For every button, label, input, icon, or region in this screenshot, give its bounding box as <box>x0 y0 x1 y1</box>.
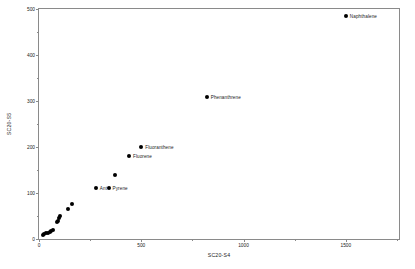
y-axis-tick <box>36 55 39 56</box>
x-axis-tick-label: 1500 <box>340 243 351 248</box>
data-point-label: Naphthalene <box>350 13 377 18</box>
data-point <box>55 220 59 224</box>
x-axis-tick <box>244 239 245 242</box>
y-axis-minor-tick <box>37 216 39 217</box>
x-axis-minor-tick <box>192 239 193 241</box>
data-point <box>344 14 348 18</box>
scatter-plot-figure: NaphthalenePhenanthreneFluorantheneFluor… <box>0 0 415 269</box>
data-point <box>139 145 143 149</box>
y-axis-tick-label: 500 <box>27 7 35 12</box>
x-axis-tick <box>39 239 40 242</box>
x-axis-minor-tick <box>90 239 91 241</box>
data-point <box>205 95 209 99</box>
data-point <box>107 186 111 190</box>
y-axis-minor-tick <box>37 32 39 33</box>
data-point <box>127 154 131 158</box>
x-axis-tick <box>141 239 142 242</box>
x-axis-minor-tick <box>295 239 296 241</box>
data-point <box>66 207 70 211</box>
plot-area: NaphthalenePhenanthreneFluorantheneFluor… <box>38 8 400 240</box>
x-axis-minor-tick <box>397 239 398 241</box>
y-axis-title: SC20-S5 <box>6 113 12 135</box>
x-axis-tick-label: 500 <box>137 243 145 248</box>
y-axis-minor-tick <box>37 124 39 125</box>
data-point <box>113 173 117 177</box>
data-point-label: Fluoranthene <box>145 145 173 150</box>
y-axis-tick-label: 200 <box>27 145 35 150</box>
y-axis-tick <box>36 147 39 148</box>
x-axis-tick-label: 0 <box>38 243 41 248</box>
y-axis-minor-tick <box>37 170 39 171</box>
x-axis-tick <box>346 239 347 242</box>
y-axis-tick-label: 400 <box>27 53 35 58</box>
data-points-layer: NaphthalenePhenanthreneFluorantheneFluor… <box>39 9 399 239</box>
data-point <box>70 202 74 206</box>
data-point-label: Ant <box>100 186 107 191</box>
x-axis-tick-label: 1000 <box>238 243 249 248</box>
y-axis-tick <box>36 193 39 194</box>
data-point <box>94 186 98 190</box>
y-axis-tick-label: 100 <box>27 191 35 196</box>
y-axis-tick <box>36 9 39 10</box>
data-point-label: Phenanthrene <box>211 95 241 100</box>
y-axis-tick <box>36 101 39 102</box>
y-axis-minor-tick <box>37 78 39 79</box>
y-axis-tick-label: 300 <box>27 99 35 104</box>
data-point-label: Pyrene <box>113 186 128 191</box>
y-axis-tick-label: 0 <box>32 237 35 242</box>
data-point <box>41 233 45 237</box>
x-axis-title: SC20-S4 <box>38 252 400 258</box>
data-point-label: Fluorene <box>133 154 152 159</box>
